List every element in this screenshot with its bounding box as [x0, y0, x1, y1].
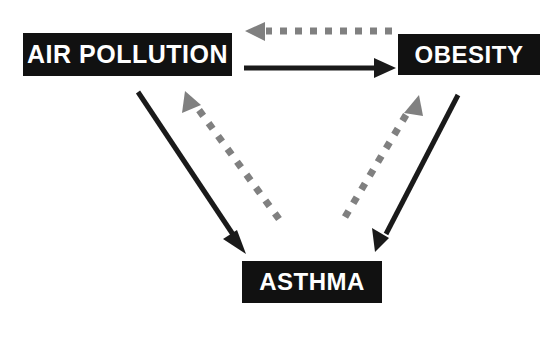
- edge-obesity-to-air-pollution: [245, 22, 392, 41]
- edge-obesity-to-asthma: [372, 95, 458, 252]
- node-obesity[interactable]: OBESITY: [398, 34, 540, 75]
- edge-air-pollution-to-asthma: [138, 92, 246, 254]
- node-asthma-label: ASTHMA: [259, 270, 365, 294]
- diagram-canvas: AIR POLLUTION OBESITY ASTHMA: [0, 0, 557, 345]
- edge-asthma-to-air-pollution: [182, 91, 279, 219]
- edge-air-pollution-to-obesity: [244, 58, 396, 78]
- edge-air-pollution-to-asthma-arrowhead: [223, 230, 246, 254]
- edge-air-pollution-to-asthma-line: [138, 92, 234, 236]
- node-obesity-label: OBESITY: [415, 43, 524, 67]
- edge-air-pollution-to-obesity-arrowhead: [374, 58, 396, 78]
- edge-asthma-to-obesity-line: [345, 110, 409, 217]
- edge-obesity-to-air-pollution-arrowhead: [245, 22, 265, 41]
- edge-obesity-to-asthma-line: [386, 95, 458, 234]
- node-air-pollution-label: AIR POLLUTION: [27, 42, 228, 67]
- node-asthma[interactable]: ASTHMA: [242, 261, 382, 303]
- edge-asthma-to-air-pollution-arrowhead: [182, 91, 201, 113]
- node-air-pollution[interactable]: AIR POLLUTION: [23, 33, 232, 76]
- edge-asthma-to-obesity-arrowhead: [404, 95, 423, 116]
- edge-asthma-to-obesity: [345, 95, 423, 217]
